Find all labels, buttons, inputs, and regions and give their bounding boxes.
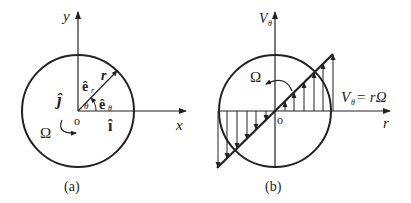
- radius-label: r: [101, 68, 107, 83]
- i-hat-label: î: [107, 117, 113, 134]
- e-theta-label: ê: [99, 97, 105, 112]
- omega-label-b: Ω: [250, 69, 261, 85]
- omega-label-a: Ω: [40, 125, 51, 141]
- j-hat-label: ĵ: [54, 90, 63, 109]
- r-axis-label: r: [383, 115, 389, 131]
- e-theta-subscript: θ: [108, 104, 112, 113]
- e-r-label: ê: [82, 79, 88, 94]
- x-axis-label: x: [175, 117, 183, 133]
- origin-label-b: o: [277, 113, 283, 127]
- v-axis-subscript: θ: [268, 19, 272, 28]
- panel-a: y x o r ê r ê θ θ î ĵ Ω (a): [22, 8, 186, 195]
- velocity-arrows-positive: [285, 55, 333, 111]
- diagram-canvas: y x o r ê r ê θ θ î ĵ Ω (a): [0, 0, 411, 203]
- theta-label: θ: [84, 101, 89, 111]
- formula-v-subscript: θ: [351, 98, 355, 107]
- caption-b: (b): [265, 179, 282, 195]
- caption-a: (a): [64, 179, 80, 195]
- origin-label-a: o: [74, 114, 80, 128]
- panel-b: V θ r o Ω V θ = rΩ (b): [217, 11, 390, 195]
- omega-rotation-arrow-b: [266, 80, 292, 91]
- theta-arc: [91, 98, 96, 111]
- y-axis-label: y: [61, 8, 70, 24]
- formula-rhs: = rΩ: [356, 89, 387, 105]
